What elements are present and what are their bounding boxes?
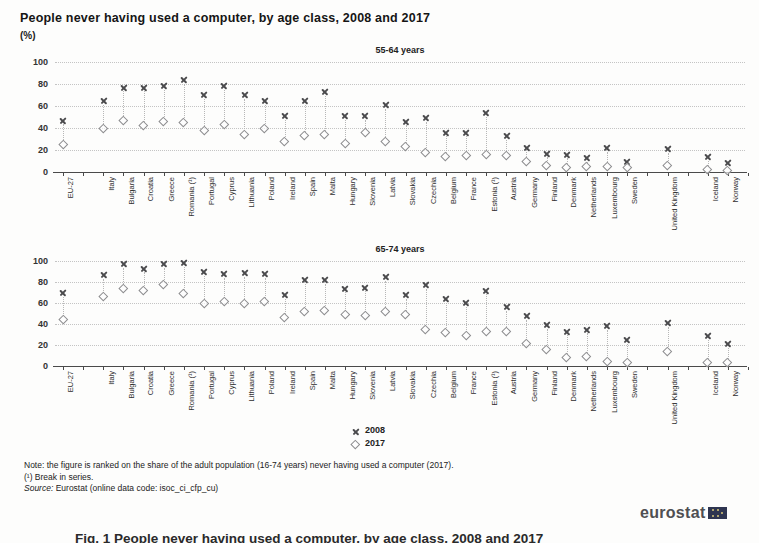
x-axis-tick (204, 367, 205, 370)
gridline (55, 128, 745, 129)
marker-2017 (481, 326, 490, 335)
x-tick-label: Estonia (¹) (490, 371, 498, 406)
marker-2008 (120, 261, 127, 268)
gridline (55, 261, 745, 262)
x-tick-label: Greece (168, 371, 176, 396)
x-tick-label: Belgium (450, 371, 458, 398)
x-tick-label: Croatia (148, 177, 156, 201)
marker-2008 (462, 129, 469, 136)
x-axis-tick (123, 173, 124, 176)
marker-2008 (140, 265, 147, 272)
x-axis-tick (607, 367, 608, 370)
marker-2017 (602, 357, 611, 366)
connector-line (345, 292, 346, 310)
connector-line (446, 136, 447, 152)
x-axis-line (53, 366, 747, 367)
marker-2017 (461, 151, 470, 160)
x-axis-tick (164, 173, 165, 176)
x-axis-tick (385, 367, 386, 370)
x-axis-tick (466, 173, 467, 176)
x-axis-tick (547, 367, 548, 370)
source-text: Eurostat (online data code: isoc_ci_cfp_… (53, 483, 218, 493)
marker-2008 (59, 117, 66, 124)
x-axis-tick (486, 367, 487, 370)
x-tick-label: Austria (510, 177, 518, 200)
x-axis-tick (728, 367, 729, 370)
marker-2017 (723, 166, 732, 175)
x-axis-tick (446, 173, 447, 176)
marker-2008 (664, 319, 671, 326)
footnotes: Note: the figure is ranked on the share … (24, 460, 454, 495)
marker-2008 (301, 276, 308, 283)
marker-2017 (441, 328, 450, 337)
x-tick-label: Iceland (712, 177, 720, 201)
x-tick-label: Croatia (148, 371, 156, 395)
marker-2017 (159, 279, 168, 288)
marker-2017 (501, 326, 510, 335)
x-axis-tick (547, 173, 548, 176)
x-tick-label: Lithuania (248, 371, 256, 401)
marker-2008 (664, 145, 671, 152)
marker-2008 (220, 83, 227, 90)
connector-line (728, 348, 729, 359)
marker-2008 (704, 332, 711, 339)
marker-2017 (260, 297, 269, 306)
x-tick-label: Cyprus (228, 177, 236, 201)
marker-2008 (281, 291, 288, 298)
marker-2008 (341, 285, 348, 292)
gridline (55, 345, 745, 346)
marker-2017 (522, 156, 531, 165)
x-axis-tick (224, 173, 225, 176)
y-tick-label: 80 (18, 79, 48, 89)
marker-2008 (341, 112, 348, 119)
x-tick-label: Luxembourg (611, 371, 619, 413)
x-tick-label: Hungary (349, 177, 357, 205)
connector-line (123, 91, 124, 116)
x-axis-tick (688, 367, 689, 370)
cropped-caption: Fig. 1 People never having used a comput… (75, 531, 695, 543)
x-tick-label: United Kingdom (672, 371, 680, 424)
connector-line (224, 278, 225, 298)
gridline (55, 106, 745, 107)
x-axis-tick (426, 367, 427, 370)
x-tick-label: Norway (732, 371, 740, 396)
connector-line (63, 124, 64, 140)
y-tick-label: 80 (18, 277, 48, 287)
marker-2008 (59, 289, 66, 296)
x-tick-label: Romania (¹) (188, 371, 196, 411)
x-axis-tick (567, 173, 568, 176)
marker-2008 (301, 97, 308, 104)
marker-2017 (199, 298, 208, 307)
unit-label: (%) (20, 30, 36, 41)
gridline (55, 303, 745, 304)
x-tick-label: Malta (329, 177, 337, 195)
x-marker-icon (352, 428, 359, 435)
connector-line (244, 99, 245, 131)
eurostat-logo-text: eurostat (640, 504, 706, 521)
marker-2008 (160, 261, 167, 268)
eurostat-logo: eurostat (640, 504, 727, 522)
x-axis-tick (426, 173, 427, 176)
marker-2008 (100, 271, 107, 278)
x-tick-label: Netherlands (591, 371, 599, 411)
x-tick-label: Germany (530, 177, 538, 208)
marker-2008 (563, 328, 570, 335)
marker-2017 (260, 123, 269, 132)
connector-line (144, 91, 145, 122)
connector-line (265, 278, 266, 298)
marker-2008 (120, 84, 127, 91)
connector-line (385, 281, 386, 308)
marker-2008 (402, 291, 409, 298)
x-axis-tick (305, 367, 306, 370)
x-tick-label: Czechia (430, 177, 438, 204)
legend-label-2008: 2008 (365, 425, 385, 435)
x-tick-label: Slovakia (410, 371, 418, 399)
marker-2008 (402, 118, 409, 125)
marker-2017 (219, 297, 228, 306)
x-axis-tick (748, 173, 749, 176)
x-tick-label: France (470, 177, 478, 200)
x-tick-label: Germany (530, 371, 538, 402)
marker-2017 (159, 117, 168, 126)
x-axis-tick (406, 367, 407, 370)
connector-line (184, 84, 185, 119)
